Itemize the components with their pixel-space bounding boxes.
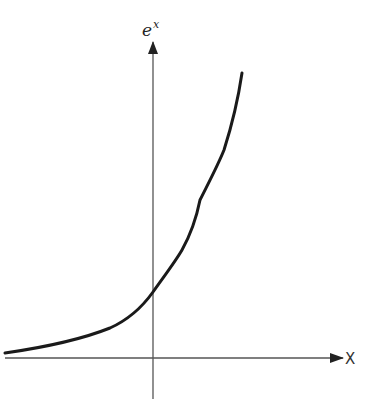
x-axis-label: X — [345, 350, 355, 368]
y-axis-label: e — [142, 20, 152, 40]
y-axis-label-exponent: x — [153, 18, 160, 31]
exponential-chart: e x X — [0, 0, 378, 420]
exp-curve — [5, 73, 242, 353]
